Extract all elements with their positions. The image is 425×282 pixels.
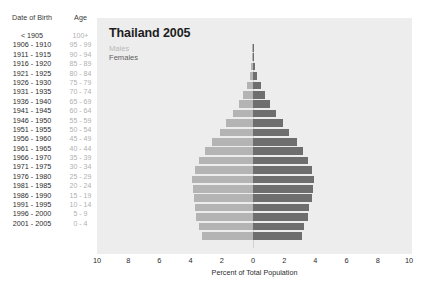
cell-age: 60 - 64: [64, 106, 97, 115]
bar-male: [205, 147, 253, 155]
table-row: 1946 - 195055 - 59: [0, 116, 97, 125]
pyramid-row: [97, 129, 412, 137]
bar-female: [253, 72, 257, 80]
bar-female: [253, 223, 304, 231]
bar-female: [253, 232, 302, 240]
cell-date-of-birth: 1956 - 1960: [0, 134, 64, 143]
table-row: 1976 - 198025 - 29: [0, 172, 97, 181]
x-tick-label: 4: [189, 256, 193, 265]
cell-age: 65 - 69: [64, 97, 97, 106]
table-row: 1921 - 192580 - 84: [0, 69, 97, 78]
pyramid-row: [97, 213, 412, 221]
pyramid-row: [97, 44, 412, 52]
cell-date-of-birth: 1996 - 2000: [0, 209, 64, 218]
pyramid-row: [97, 138, 412, 146]
cell-date-of-birth: 1961 - 1965: [0, 144, 64, 153]
cell-date-of-birth: 1941 - 1945: [0, 106, 64, 115]
cell-date-of-birth: 1971 - 1975: [0, 162, 64, 171]
bar-female: [253, 110, 276, 118]
bar-female: [253, 185, 313, 193]
bar-male: [194, 194, 253, 202]
table-row: 1956 - 196045 - 49: [0, 134, 97, 143]
cell-date-of-birth: 1986 - 1990: [0, 191, 64, 200]
x-tick-label: 2: [220, 256, 224, 265]
pyramid-row: [97, 91, 412, 99]
bar-female: [253, 44, 254, 52]
cell-date-of-birth: 1946 - 1950: [0, 116, 64, 125]
x-tick-label: 8: [376, 256, 380, 265]
table-row: 1971 - 197530 - 34: [0, 162, 97, 171]
age-label-table: Date of Birth Age < 1905100+1906 - 19109…: [0, 13, 97, 228]
bar-male: [193, 185, 253, 193]
cell-age: 25 - 29: [64, 172, 97, 181]
cell-age: 15 - 19: [64, 191, 97, 200]
bar-female: [253, 82, 261, 90]
bars-layer: [97, 18, 412, 254]
bar-male: [195, 204, 253, 212]
x-tick-label: 6: [345, 256, 349, 265]
cell-age: 20 - 24: [64, 181, 97, 190]
cell-age: 40 - 44: [64, 144, 97, 153]
bar-male: [199, 223, 253, 231]
pyramid-row: [97, 204, 412, 212]
cell-date-of-birth: 1906 - 1910: [0, 40, 64, 49]
x-tick-label: 6: [157, 256, 161, 265]
table-row: 1931 - 193570 - 74: [0, 87, 97, 96]
pyramid-row: [97, 176, 412, 184]
x-tick-label: 0: [251, 256, 255, 265]
cell-age: 85 - 89: [64, 59, 97, 68]
cell-age: 100+: [64, 31, 97, 40]
pyramid-row: [97, 185, 412, 193]
cell-date-of-birth: 1951 - 1955: [0, 125, 64, 134]
cell-age: 55 - 59: [64, 116, 97, 125]
cell-age: 50 - 54: [64, 125, 97, 134]
cell-date-of-birth: < 1905: [0, 31, 64, 40]
cell-age: 80 - 84: [64, 69, 97, 78]
cell-date-of-birth: 1916 - 1920: [0, 59, 64, 68]
cell-age: 0 - 4: [64, 219, 97, 228]
table-row: 1916 - 192085 - 89: [0, 59, 97, 68]
table-row: 1951 - 195550 - 54: [0, 125, 97, 134]
x-tick-label: 2: [282, 256, 286, 265]
table-row: < 1905100+: [0, 31, 97, 40]
table-row: 1941 - 194560 - 64: [0, 106, 97, 115]
table-row: 1991 - 199510 - 14: [0, 200, 97, 209]
table-row: 1986 - 199015 - 19: [0, 191, 97, 200]
cell-date-of-birth: 1921 - 1925: [0, 69, 64, 78]
cell-age: 70 - 74: [64, 87, 97, 96]
pyramid-row: [97, 82, 412, 90]
cell-age: 5 - 9: [64, 209, 97, 218]
cell-date-of-birth: 1981 - 1985: [0, 181, 64, 190]
cell-date-of-birth: 1911 - 1915: [0, 50, 64, 59]
cell-date-of-birth: 2001 - 2005: [0, 219, 64, 228]
cell-age: 45 - 49: [64, 134, 97, 143]
cell-age: 75 - 79: [64, 78, 97, 87]
bar-male: [202, 232, 253, 240]
bar-male: [196, 213, 253, 221]
pyramid-row: [97, 194, 412, 202]
pyramid-row: [97, 147, 412, 155]
column-header-age: Age: [64, 13, 97, 22]
table-row: 1981 - 198520 - 24: [0, 181, 97, 190]
bar-female: [253, 176, 314, 184]
cell-age: 95 - 99: [64, 40, 97, 49]
bar-female: [253, 91, 265, 99]
cell-date-of-birth: 1931 - 1935: [0, 87, 64, 96]
x-axis: Percent of Total Population 108642024681…: [97, 254, 412, 282]
cell-date-of-birth: 1966 - 1970: [0, 153, 64, 162]
table-row: 1906 - 191095 - 99: [0, 40, 97, 49]
table-row: 1911 - 191590 - 94: [0, 50, 97, 59]
pyramid-row: [97, 232, 412, 240]
plot-area: Thailand 2005 Males Females: [97, 18, 412, 254]
cell-age: 30 - 34: [64, 162, 97, 171]
bar-male: [226, 119, 253, 127]
bar-female: [253, 157, 308, 165]
cell-age: 90 - 94: [64, 50, 97, 59]
bar-male: [233, 110, 253, 118]
bar-female: [253, 129, 289, 137]
pyramid-row: [97, 223, 412, 231]
bar-female: [253, 63, 255, 71]
bar-male: [195, 166, 254, 174]
pyramid-row: [97, 53, 412, 61]
bar-female: [253, 119, 283, 127]
